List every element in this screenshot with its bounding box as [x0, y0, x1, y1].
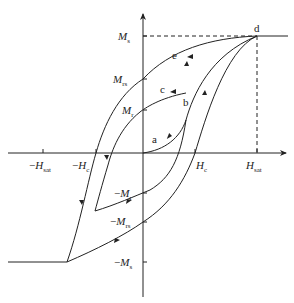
- label-neg-Mrs: −Mrs: [110, 215, 131, 230]
- label-neg-Ms: −Ms: [114, 256, 132, 271]
- label-Mr: Mr: [121, 104, 134, 119]
- point-label-b: b: [183, 96, 189, 108]
- curves: [8, 36, 288, 262]
- arrow-icon: [187, 54, 193, 59]
- minor-ascending-branch: [95, 120, 186, 211]
- arrow-icon: [184, 61, 189, 66]
- label-Hc: Hc: [195, 159, 207, 174]
- point-label-a: a: [152, 133, 157, 145]
- minor-descending-branch: [95, 93, 186, 211]
- arrow-icon: [170, 89, 176, 94]
- label-neg-Mr: −Mr: [114, 187, 132, 202]
- point-label-d: d: [254, 22, 260, 34]
- label-neg-Hc: −Hc: [72, 159, 89, 174]
- arrow-icon: [165, 133, 172, 139]
- label-Mrs: Mrs: [112, 73, 128, 88]
- label-Ms: Ms: [117, 30, 130, 45]
- axes: [8, 14, 286, 297]
- hysteresis-diagram: Ms Mrs Mr −Mr −Mrs −Ms −Hsat −Hc Hc Hsat…: [0, 0, 294, 303]
- point-labels: a b c d e: [152, 22, 260, 145]
- arrow-icon: [104, 155, 109, 160]
- ticks: [43, 36, 257, 262]
- label-Hsat: Hsat: [245, 159, 262, 174]
- arrow-icon: [114, 238, 120, 243]
- point-label-c: c: [160, 83, 165, 95]
- arrow-icon: [202, 90, 207, 95]
- label-neg-Hsat: −Hsat: [29, 159, 51, 174]
- x-axis-labels: −Hsat −Hc Hc Hsat: [29, 159, 262, 174]
- point-label-e: e: [172, 49, 177, 61]
